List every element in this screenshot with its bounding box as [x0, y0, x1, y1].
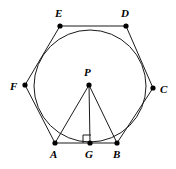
geometry-figure: A B C D E F P G: [0, 0, 176, 169]
point-E: [57, 23, 62, 28]
label-D: D: [120, 7, 129, 19]
label-P: P: [84, 66, 91, 78]
segment-PB: [89, 85, 117, 143]
label-A: A: [49, 148, 57, 160]
label-B: B: [112, 148, 120, 160]
point-G: [87, 140, 92, 145]
label-F: F: [9, 80, 18, 92]
segment-PA: [55, 85, 89, 143]
point-P: [86, 82, 91, 87]
point-F: [22, 82, 27, 87]
point-B: [114, 140, 119, 145]
geometry-canvas: A B C D E F P G: [0, 0, 176, 169]
label-C: C: [160, 83, 168, 95]
point-D: [123, 23, 128, 28]
point-A: [52, 140, 57, 145]
label-E: E: [54, 7, 62, 19]
point-C: [150, 85, 155, 90]
segment-PG: [89, 85, 90, 143]
label-G: G: [85, 148, 93, 160]
